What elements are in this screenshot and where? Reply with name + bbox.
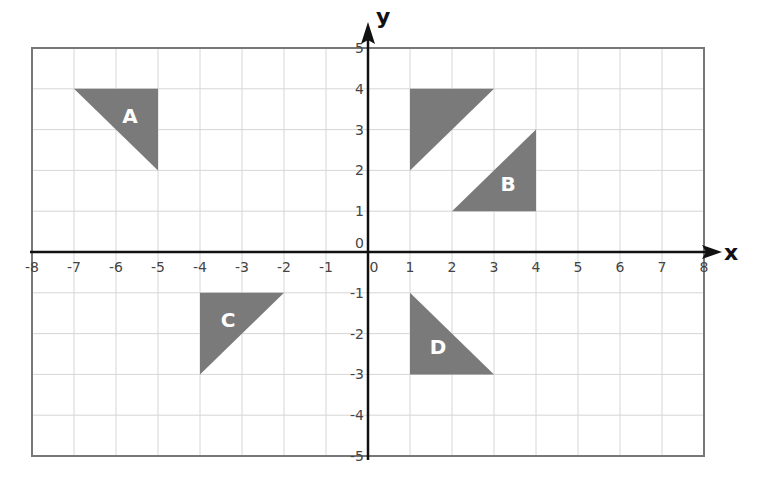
- x-tick-label: -7: [67, 259, 81, 275]
- y-axis-label: y: [376, 4, 390, 29]
- y-tick-label: -1: [350, 285, 364, 301]
- triangle-label: A: [122, 104, 138, 128]
- x-tick-label: 4: [532, 259, 541, 275]
- y-tick-label: 5: [355, 40, 364, 56]
- x-tick-label: -3: [235, 259, 249, 275]
- y-tick-label: 1: [355, 203, 364, 219]
- axes: [30, 22, 722, 460]
- x-tick-label: 2: [448, 259, 457, 275]
- x-tick-label: 5: [574, 259, 583, 275]
- x-tick-label: 3: [490, 259, 499, 275]
- y-tick-label: 4: [355, 81, 364, 97]
- x-tick-label: -1: [319, 259, 333, 275]
- coordinate-grid: ABCD -8-7-6-5-4-3-2-1012345678543210-1-2…: [0, 0, 761, 479]
- triangle-label: C: [221, 308, 236, 332]
- x-tick-label: 1: [406, 259, 415, 275]
- y-tick-label: -5: [350, 448, 364, 464]
- y-tick-label: 3: [355, 122, 364, 138]
- x-tick-label: 0: [370, 259, 379, 275]
- x-tick-label: 6: [616, 259, 625, 275]
- x-tick-label: -8: [25, 259, 39, 275]
- x-tick-label: -2: [277, 259, 291, 275]
- y-tick-label: -3: [350, 366, 364, 382]
- y-tick-label: -4: [350, 407, 364, 423]
- y-tick-label: 2: [355, 162, 364, 178]
- triangle-label: B: [500, 172, 515, 196]
- x-tick-label: -4: [193, 259, 207, 275]
- x-tick-label: -5: [151, 259, 165, 275]
- y-tick-label: 0: [355, 235, 364, 251]
- x-tick-label: -6: [109, 259, 123, 275]
- triangle-label: D: [430, 335, 447, 359]
- y-tick-label: -2: [350, 326, 364, 342]
- x-tick-label: 7: [658, 259, 667, 275]
- x-axis-label: x: [724, 240, 738, 265]
- x-tick-label: 8: [700, 259, 709, 275]
- shapes: ABCD: [74, 89, 536, 375]
